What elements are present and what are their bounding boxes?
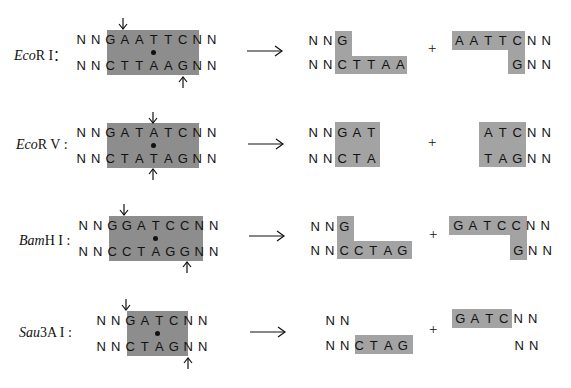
- top-strand: NNGGATCCNN: [76, 218, 221, 234]
- product-left-bottom: NNCTAG: [323, 338, 410, 354]
- plus-sign: +: [428, 134, 436, 151]
- top-strand: NNGAATTCNN: [74, 32, 219, 48]
- reaction-arrow-icon: [248, 138, 285, 150]
- product-left-bottom: NNCTTAA: [306, 57, 408, 73]
- product-right-top: GATCCNN: [451, 218, 553, 234]
- cut-arrow-down-icon: [121, 299, 131, 311]
- enzyme-label-ecori: EcoR I：: [14, 44, 67, 64]
- product-right-bottom: GNN: [510, 57, 554, 73]
- bottom-strand: NNCCTAGGNN: [76, 244, 221, 260]
- symmetry-dot-icon: [151, 143, 156, 148]
- product-left-bottom: NNCTA: [306, 151, 379, 167]
- cut-arrow-up-icon: [148, 168, 158, 180]
- plus-sign: +: [429, 226, 437, 243]
- top-strand: NNGATATCNN: [74, 125, 219, 141]
- bottom-strand: NNCTAGNN: [94, 339, 210, 355]
- product-right-top: ATCNN: [481, 125, 554, 141]
- product-left-top: NNGAT: [306, 125, 379, 141]
- reaction-arrow-icon: [249, 230, 286, 242]
- product-right-top: AATTCNN: [452, 33, 554, 49]
- plus-sign: +: [429, 321, 437, 338]
- cut-arrow-up-icon: [183, 357, 193, 369]
- product-right-bottom: NN: [512, 338, 541, 354]
- cut-arrow-down-icon: [119, 204, 129, 216]
- bottom-strand: NNCTTAAGNN: [74, 58, 219, 74]
- product-left-bottom: NNCCTAG: [308, 243, 410, 259]
- cut-arrow-down-icon: [148, 112, 158, 124]
- cut-arrow-down-icon: [118, 18, 128, 30]
- enzyme-label-ecorv: EcoR V :: [16, 137, 68, 153]
- symmetry-dot-icon: [155, 331, 160, 336]
- reaction-arrow-icon: [250, 326, 287, 338]
- product-left-top: NNG: [306, 33, 350, 49]
- product-left-top: NNG: [308, 219, 352, 235]
- product-left-top: NN: [323, 313, 352, 329]
- bottom-strand: NNCTATAGNN: [74, 151, 219, 167]
- plus-sign: +: [428, 40, 436, 57]
- symmetry-dot-icon: [151, 50, 156, 55]
- product-right-bottom: GNN: [511, 243, 555, 259]
- product-right-top: GATCNN: [453, 311, 540, 327]
- enzyme-label-bamhi: BamH I :: [19, 233, 70, 249]
- cut-arrow-up-icon: [182, 261, 192, 273]
- enzyme-label-sau3ai: Sau3A I :: [19, 325, 72, 341]
- symmetry-dot-icon: [153, 236, 158, 241]
- top-strand: NNGATCNN: [94, 313, 210, 329]
- reaction-arrow-icon: [247, 45, 284, 57]
- cut-arrow-up-icon: [178, 76, 188, 88]
- product-right-bottom: TAGNN: [481, 151, 554, 167]
